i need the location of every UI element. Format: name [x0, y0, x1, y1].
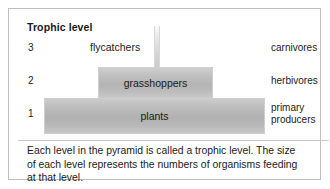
role-label-primary-producers-line2: producers: [271, 114, 315, 126]
role-label-primary-producers-line1: primary: [271, 102, 315, 114]
role-label-carnivores: carnivores: [271, 42, 317, 54]
trophic-level-number-2: 2: [28, 75, 42, 86]
pyramid-bar-label-level-2: grasshoppers: [99, 78, 212, 89]
pyramid-bar-level-3: [154, 26, 160, 71]
caption-line-1: Each level in the pyramid is called a tr…: [27, 144, 317, 158]
caption-line-3: at that level.: [27, 171, 317, 185]
pyramid-bar-label-level-1: plants: [45, 111, 264, 122]
role-label-primary-producers: primary producers: [271, 102, 315, 125]
caption-divider: [18, 140, 329, 141]
trophic-pyramid-figure: Trophic level 3 2 1 flycatchers grasshop…: [0, 0, 330, 189]
pyramid-bar-label-level-3: flycatchers: [90, 41, 140, 53]
role-label-herbivores: herbivores: [271, 75, 318, 87]
figure-title: Trophic level: [27, 21, 93, 33]
caption-line-2: of each level represents the numbers of …: [27, 158, 317, 172]
pyramid-bar-level-2: grasshoppers: [98, 67, 213, 99]
pyramid-bar-level-1: plants: [44, 98, 265, 134]
trophic-level-number-1: 1: [28, 108, 42, 119]
figure-caption: Each level in the pyramid is called a tr…: [27, 144, 317, 185]
trophic-level-number-3: 3: [28, 42, 42, 53]
figure-frame: Trophic level 3 2 1 flycatchers grasshop…: [8, 8, 321, 180]
